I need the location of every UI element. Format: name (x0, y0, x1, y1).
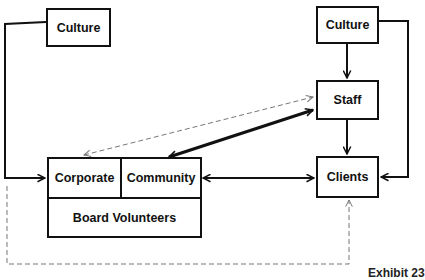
edge-culture-to-clients (378, 21, 408, 177)
board-volunteers-cell: Board Volunteers (49, 199, 200, 236)
community-label: Community (127, 171, 196, 185)
culture-left-label: Culture (57, 21, 101, 35)
staff-node: Staff (316, 80, 379, 120)
corporate-cell: Corporate (49, 159, 122, 199)
volunteer-group-node: Corporate Community Board Volunteers (47, 157, 202, 238)
edge-culture-to-corporate (5, 22, 46, 178)
exhibit-caption: Exhibit 23 (368, 266, 425, 280)
edge-staff-community (169, 110, 313, 157)
staff-label: Staff (334, 93, 362, 107)
clients-node: Clients (316, 156, 379, 198)
culture-right-label: Culture (326, 18, 370, 32)
community-cell: Community (122, 159, 200, 199)
clients-label: Clients (327, 170, 369, 184)
board-volunteers-label: Board Volunteers (73, 211, 176, 225)
corporate-label: Corporate (55, 171, 115, 185)
culture-left-node: Culture (46, 8, 111, 47)
culture-right-node: Culture (316, 6, 379, 44)
